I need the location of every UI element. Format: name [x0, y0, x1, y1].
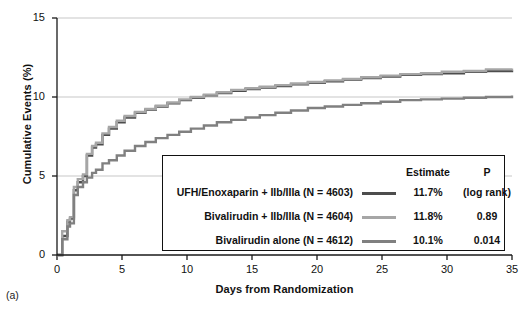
legend-label: Bivalirudin + IIb/IIIa (N = 4604): [163, 204, 358, 228]
legend-p-value: (log rank): [456, 180, 518, 204]
legend-estimate: 11.7%: [400, 180, 456, 204]
x-axis-title: Days from Randomization: [57, 283, 512, 295]
legend-estimate: 10.1%: [400, 228, 456, 252]
x-tick-label-30: 30: [427, 263, 467, 275]
legend-label: UFH/Enoxaparin + IIb/IIIa (N = 4603): [163, 180, 358, 204]
legend-header-row: Estimate P: [163, 156, 518, 180]
x-tick-label-20: 20: [297, 263, 337, 275]
x-tick-label-0: 0: [37, 263, 77, 275]
x-tick-label-35: 35: [492, 263, 522, 275]
y-axis-title: Cumulative Events (%): [21, 29, 33, 219]
legend-line-icon: [362, 216, 396, 219]
legend-row: Bivalirudin alone (N = 4612)10.1%0.014: [163, 228, 518, 252]
panel-label: (a): [6, 289, 19, 301]
legend-row: UFH/Enoxaparin + IIb/IIIa (N = 4603)11.7…: [163, 180, 518, 204]
legend-line-icon: [362, 192, 396, 195]
x-tick-label-15: 15: [232, 263, 272, 275]
legend-p-value: 0.89: [456, 204, 518, 228]
x-tick-label-5: 5: [102, 263, 142, 275]
legend-swatch-bivalirudin-alone: [358, 228, 400, 252]
y-tick-label-0: 0: [5, 248, 45, 260]
legend-swatch-bivalirudin-gpi: [358, 204, 400, 228]
legend-swatch-ufh-enoxaparin: [358, 180, 400, 204]
x-tick-label-25: 25: [362, 263, 402, 275]
y-tick-label-5: 5: [5, 169, 45, 181]
legend-p-value: 0.014: [456, 228, 518, 252]
y-tick-label-15: 15: [5, 11, 45, 23]
legend-header-blank: [163, 156, 358, 180]
legend-table: Estimate P UFH/Enoxaparin + IIb/IIIa (N …: [163, 156, 518, 252]
legend-header-estimate: Estimate: [400, 156, 456, 180]
legend-estimate: 11.8%: [400, 204, 456, 228]
legend-header-p: P: [456, 156, 518, 180]
y-tick-label-10: 10: [5, 90, 45, 102]
legend-label: Bivalirudin alone (N = 4612): [163, 228, 358, 252]
legend-box: Estimate P UFH/Enoxaparin + IIb/IIIa (N …: [162, 155, 505, 251]
legend-row: Bivalirudin + IIb/IIIa (N = 4604)11.8%0.…: [163, 204, 518, 228]
legend-line-icon: [362, 240, 396, 243]
figure-panel-a: Cumulative Events (%) Days from Randomiz…: [0, 0, 522, 310]
legend-header-swatch-blank: [358, 156, 400, 180]
x-tick-label-10: 10: [167, 263, 207, 275]
